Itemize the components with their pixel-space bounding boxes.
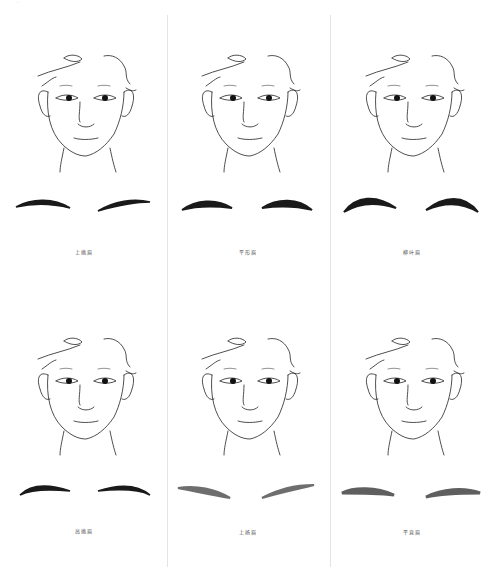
face-drawing (2, 295, 165, 535)
face-drawing (330, 295, 490, 535)
right-brow-sample (98, 200, 150, 211)
right-brow-sample (262, 201, 312, 210)
right-brow-sample (426, 490, 480, 497)
brow-style-label: 平形眉 (166, 248, 329, 255)
brow-style-label: 上挑眉 (2, 248, 165, 255)
right-brow-sample (262, 485, 314, 498)
corner-mark: · · (16, 0, 20, 5)
right-brow-sample (98, 486, 150, 495)
brow-style-label: 平直眉 (330, 528, 490, 535)
eyebrow-panel-willow: 柳叶眉 (330, 12, 490, 302)
face-drawing (330, 12, 490, 252)
eyebrow-panel-flat: 平形眉 (166, 12, 329, 302)
left-brow-sample (178, 487, 230, 498)
brow-style-label: 上扬眉 (166, 528, 329, 535)
eyebrow-panel-high-arch: 高挑眉 (2, 295, 165, 580)
left-brow-sample (344, 199, 396, 212)
left-brow-sample (342, 489, 394, 495)
face-drawing (2, 12, 165, 252)
eyebrow-panel-rising: 上扬眉 (166, 295, 329, 580)
left-brow-sample (16, 200, 70, 208)
brow-style-label: 柳叶眉 (330, 248, 490, 255)
brow-style-label: 高挑眉 (2, 527, 165, 534)
eyebrow-panel-straight: 平直眉 (330, 295, 490, 580)
left-brow-sample (182, 201, 232, 210)
face-drawing (166, 12, 329, 252)
face-drawing (166, 295, 329, 535)
eyebrow-panel-upturned: 上挑眉 (2, 12, 165, 302)
right-brow-sample (426, 199, 478, 212)
left-brow-sample (20, 486, 70, 495)
